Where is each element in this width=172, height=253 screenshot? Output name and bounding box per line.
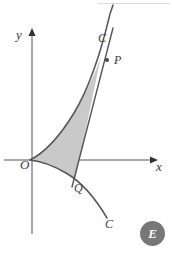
math-figure [0,0,172,253]
point-q-label: Q [74,182,83,194]
curve-label-top: C [98,32,106,44]
y-axis-arrow-icon [28,28,35,36]
point-p-marker [105,58,109,62]
y-axis-label: y [16,28,22,41]
point-p-label: P [114,54,121,66]
curve-label-bottom: C [105,218,113,230]
answer-badge-e: E [140,221,165,246]
figure-canvas: y x O C P Q C E [0,0,172,253]
origin-label: O [20,158,29,171]
x-axis-label: x [156,160,162,173]
